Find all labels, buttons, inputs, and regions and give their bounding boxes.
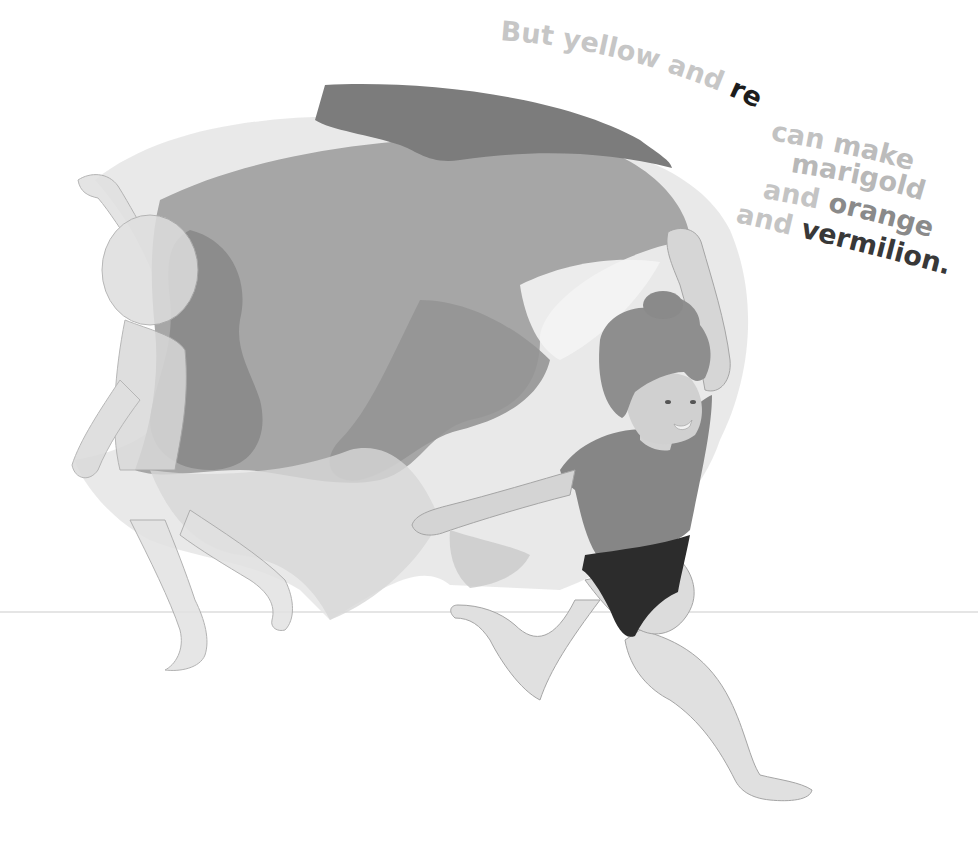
- right-child-eye-left: [665, 400, 671, 404]
- word-and-1: and: [664, 48, 729, 97]
- picture-book-page: But yellow and red can make: [0, 0, 978, 856]
- right-child-hair-bun: [643, 291, 683, 319]
- right-child-back-leg: [451, 600, 600, 700]
- left-child-head: [102, 215, 198, 325]
- right-child-eye-right: [690, 400, 696, 404]
- right-child-front-leg: [625, 630, 812, 801]
- word-but: But: [500, 15, 556, 52]
- word-yellow: yellow: [561, 22, 664, 74]
- illustration: But yellow and red can make: [0, 0, 978, 856]
